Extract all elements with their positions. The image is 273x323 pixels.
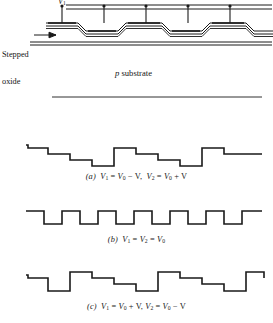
- stepped-oxide-label: Stepped oxide: [2, 31, 29, 105]
- substrate-label-text: substrate: [119, 68, 152, 78]
- stepped-oxide-profile-lower-2: [46, 29, 273, 37]
- top-voltage-label: V1: [58, 0, 66, 6]
- stepped-oxide-label-line2: oxide: [2, 77, 29, 86]
- caption-c-tail1: + V,: [127, 302, 143, 311]
- caption-a-tail1: − V,: [126, 172, 142, 181]
- stepped-oxide-pointer-arrow: [34, 32, 56, 38]
- caption-b-eq2: =: [148, 235, 157, 244]
- stepped-oxide-label-line1: Stepped: [2, 50, 29, 59]
- caption-c-tail2: − V: [171, 302, 186, 311]
- potential-well-trace-c: [26, 272, 264, 291]
- gate-electrodes: [48, 23, 244, 31]
- caption-b-tag: (b): [108, 235, 118, 244]
- caption-c-eq2: =: [153, 302, 162, 311]
- caption-c-tag: (c): [87, 302, 97, 311]
- potential-well-trace-b: [26, 211, 262, 224]
- caption-c: (c) V1 = V0 + V, V2 = V0 − V: [0, 302, 273, 311]
- stepped-oxide-profile-upper: [46, 23, 273, 31]
- cross-section-drawing: [0, 0, 273, 323]
- top-voltage-subscript: 1: [63, 0, 66, 6]
- caption-b: (b) V1 = V2 = V0: [0, 235, 273, 244]
- caption-b-v0-sub: 0: [162, 238, 165, 244]
- caption-a: (a) V1 = V0 − V, V2 = V0 + V: [0, 172, 273, 181]
- caption-a-tag: (a): [86, 172, 96, 181]
- caption-b-eq1: =: [130, 235, 139, 244]
- substrate-label: p substrate: [115, 69, 152, 79]
- caption-a-eq2: =: [155, 172, 164, 181]
- substrate-boundary: [30, 42, 272, 45]
- caption-a-tail2: + V: [172, 172, 187, 181]
- potential-well-trace-a: [26, 145, 262, 166]
- figure-ccd-stepped-oxide: V1 Stepped oxide p substrate (a) V1 = V0…: [0, 0, 273, 323]
- caption-a-eq1: =: [108, 172, 117, 181]
